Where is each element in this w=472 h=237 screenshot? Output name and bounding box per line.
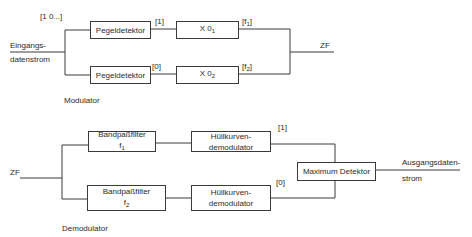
output-label-line1: Ausgangsdaten-	[402, 158, 460, 168]
bandpass-filter-upper-line1: Bandpaßfilter	[98, 129, 146, 140]
bandpass-filter-lower: Bandpaßfilter f2	[87, 185, 166, 211]
envelope-demodulator-upper-line2: demodulator	[209, 142, 253, 153]
zf-input-label: ZF	[10, 168, 20, 178]
output-label-line2: strom	[402, 174, 422, 184]
envelope-demodulator-lower-line2: demodulator	[209, 198, 253, 209]
envelope-demodulator-upper: Hüllkurven- demodulator	[191, 131, 271, 152]
bandpass-filter-upper-line2: f1	[119, 140, 125, 154]
maximum-detector: Maximum Detektor	[297, 162, 376, 181]
multiplier-lower: X 02	[176, 66, 239, 84]
multiplier-lower-label: X 02	[200, 68, 215, 82]
demodulator-title: Demodulator	[62, 224, 108, 234]
multiplier-upper-label: X 01	[200, 23, 215, 37]
level-detector-upper: Pegeldetektor	[90, 21, 151, 39]
bit-0-label: [0]	[152, 62, 161, 72]
envelope-demodulator-upper-line1: Hüllkurven-	[211, 131, 251, 142]
zf-output-label: ZF	[320, 41, 330, 51]
bandpass-filter-lower-line2: f2	[124, 197, 130, 211]
freq-f1-label: [f1]	[242, 17, 252, 29]
modulator-title: Modulator	[64, 96, 100, 106]
envelope-demodulator-lower-line1: Hüllkurven-	[211, 187, 251, 198]
demod-bit-1-label: [1]	[278, 123, 287, 133]
input-label-line1: Eingangs-	[10, 41, 46, 51]
freq-f2-label: [f2]	[242, 62, 252, 74]
multiplier-upper: X 01	[176, 21, 239, 39]
demod-bit-0-label: [0]	[276, 178, 285, 188]
level-detector-upper-label: Pegeldetektor	[96, 25, 145, 36]
bandpass-filter-upper: Bandpaßfilter f1	[88, 131, 156, 152]
bandpass-filter-lower-line1: Bandpaßfilter	[103, 186, 151, 197]
envelope-demodulator-lower: Hüllkurven- demodulator	[191, 185, 271, 211]
level-detector-lower-label: Pegeldetektor	[96, 70, 145, 81]
bit-1-label: [1]	[155, 17, 164, 27]
level-detector-lower: Pegeldetektor	[90, 66, 151, 84]
input-label-line2: datenstrom	[10, 55, 50, 65]
input-sequence-label: [1 0...]	[40, 12, 62, 22]
maximum-detector-label: Maximum Detektor	[303, 166, 370, 177]
